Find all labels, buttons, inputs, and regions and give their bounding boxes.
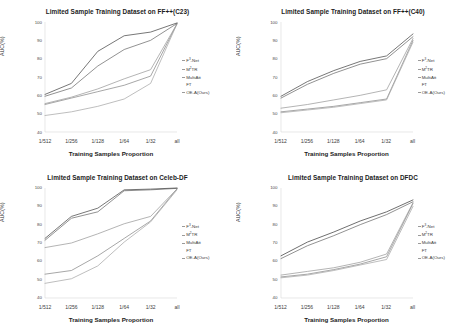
- y-tick-label: 60: [258, 258, 278, 263]
- y-axis-label: AUC(%): [0, 37, 5, 56]
- y-tick-label: 80: [22, 222, 42, 227]
- legend-line-icon: [182, 226, 185, 227]
- legend-item: F3-Net: [418, 224, 445, 230]
- legend-item-label: F3-Net: [422, 58, 435, 64]
- legend-line-icon: [418, 226, 421, 227]
- x-axis-label: Training Samples Proportion: [281, 150, 413, 157]
- y-tick-label: 90: [258, 203, 278, 208]
- legend-item: F3-Net: [182, 224, 209, 230]
- legend-line-icon: [182, 77, 185, 78]
- legend-item-label: FT: [186, 83, 191, 87]
- chart-title: Limited Sample Training Dataset on FF++(…: [0, 8, 235, 15]
- y-tick-label: 70: [258, 75, 278, 80]
- x-tick-label: all: [398, 304, 428, 310]
- x-tick-label: all: [398, 138, 428, 144]
- legend-item-label: MultiAtt: [422, 76, 437, 80]
- legend-line-icon: [418, 243, 421, 244]
- y-tick-label: 60: [22, 258, 42, 263]
- legend-line-icon: [182, 92, 185, 93]
- x-axis-label: Training Samples Proportion: [45, 150, 177, 157]
- figure-grid: Limited Sample Training Dataset on FF++(…: [0, 0, 471, 331]
- legend-item: M2TR: [182, 67, 209, 73]
- y-tick-label: 90: [22, 203, 42, 208]
- legend-line-icon: [418, 69, 421, 70]
- legend-item-label: M2TR: [422, 232, 433, 238]
- legend-item: OE-A(Ours): [182, 91, 209, 95]
- legend-item-label: M2TR: [422, 67, 433, 73]
- y-tick-label: 70: [22, 75, 42, 80]
- y-tick-label: 70: [22, 240, 42, 245]
- legend-item-label: FT: [422, 249, 427, 253]
- legend-item-label: F3-Net: [422, 224, 435, 230]
- series-line: [281, 37, 413, 98]
- legend-item: M2TR: [418, 232, 445, 238]
- legend-line-icon: [418, 77, 421, 78]
- legend-item: OE-A(Ours): [182, 256, 209, 260]
- x-axis-label: Training Samples Proportion: [45, 316, 177, 323]
- legend-item: MultiAtt: [418, 241, 445, 245]
- legend-item: FT: [182, 83, 209, 87]
- legend-item-label: MultiAtt: [422, 241, 437, 245]
- chart-title: Limited Sample Training Dataset on FF++(…: [236, 8, 471, 15]
- legend-line-icon: [418, 235, 421, 236]
- series-line: [281, 202, 413, 274]
- y-tick-label: 100: [258, 20, 278, 25]
- plot-area: [281, 188, 413, 298]
- chart-panel-ffc23: Limited Sample Training Dataset on FF++(…: [0, 0, 235, 165]
- legend-line-icon: [182, 258, 185, 259]
- series-line: [281, 39, 413, 109]
- y-tick-label: 50: [22, 111, 42, 116]
- plot-area: [45, 22, 177, 132]
- chart-panel-dfdc: Limited Sample Training Dataset on DFDC …: [236, 166, 471, 331]
- y-tick-label: 60: [258, 93, 278, 98]
- legend-item-label: F3-Net: [186, 224, 199, 230]
- legend-line-icon: [182, 60, 185, 61]
- legend-line-icon: [418, 258, 421, 259]
- legend-item-label: OE-A(Ours): [186, 91, 209, 95]
- y-tick-label: 50: [258, 111, 278, 116]
- legend-item: M2TR: [182, 232, 209, 238]
- x-tick-label: all: [162, 138, 192, 144]
- legend-item-label: MultiAtt: [186, 241, 201, 245]
- legend-item: MultiAtt: [182, 76, 209, 80]
- y-axis-label: AUC(%): [0, 202, 5, 221]
- x-axis-label: Training Samples Proportion: [281, 316, 413, 323]
- legend-item-label: MultiAtt: [186, 76, 201, 80]
- y-tick-label: 70: [258, 240, 278, 245]
- chart-panel-celebdf: Limited Sample Training Dataset on Celeb…: [0, 166, 235, 331]
- chart-legend: F3-NetM2TRMultiAttFTOE-A(Ours): [418, 224, 445, 261]
- y-tick-label: 40: [22, 295, 42, 300]
- legend-item: OE-A(Ours): [418, 91, 445, 95]
- legend-item-label: F3-Net: [186, 58, 199, 64]
- plot-area: [45, 188, 177, 298]
- legend-item-label: OE-A(Ours): [422, 91, 445, 95]
- legend-item: F3-Net: [418, 58, 445, 64]
- legend-line-icon: [182, 235, 185, 236]
- y-tick-label: 50: [22, 277, 42, 282]
- legend-item-label: FT: [422, 83, 427, 87]
- legend-item-label: FT: [186, 249, 191, 253]
- chart-legend: F3-NetM2TRMultiAttFTOE-A(Ours): [182, 58, 209, 95]
- chart-title: Limited Sample Training Dataset on Celeb…: [0, 174, 235, 181]
- series-line: [281, 203, 413, 276]
- x-tick-label: all: [162, 304, 192, 310]
- y-tick-label: 80: [22, 56, 42, 61]
- series-line: [281, 34, 413, 96]
- y-tick-label: 40: [258, 295, 278, 300]
- y-axis-label: AUC(%): [236, 37, 241, 56]
- legend-item-label: M2TR: [186, 67, 197, 73]
- series-line: [281, 201, 413, 258]
- y-tick-label: 80: [258, 222, 278, 227]
- legend-item-label: OE-A(Ours): [422, 256, 445, 260]
- legend-item: MultiAtt: [182, 241, 209, 245]
- y-tick-label: 100: [22, 20, 42, 25]
- y-tick-label: 90: [22, 38, 42, 43]
- y-axis-label: AUC(%): [236, 202, 241, 221]
- chart-legend: F3-NetM2TRMultiAttFTOE-A(Ours): [182, 224, 209, 261]
- legend-item: FT: [418, 249, 445, 253]
- legend-line-icon: [418, 60, 421, 61]
- legend-line-icon: [182, 243, 185, 244]
- y-tick-label: 90: [258, 38, 278, 43]
- series-line: [281, 199, 413, 255]
- legend-item: M2TR: [418, 67, 445, 73]
